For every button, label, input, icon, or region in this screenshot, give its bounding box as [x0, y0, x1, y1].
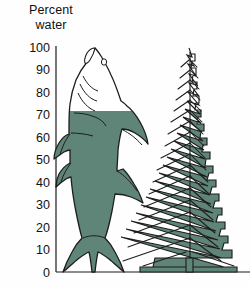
tree-empty-region [110, 40, 245, 112]
tree-trunk [186, 258, 193, 272]
fish-silhouette [50, 40, 160, 276]
percent-water-figure: Percent water 100 90 80 70 60 50 40 30 2… [0, 0, 250, 287]
fish-eye [101, 59, 106, 65]
fish-empty-region [50, 40, 160, 112]
conifer-tree-silhouette [110, 40, 245, 276]
plot-area [0, 0, 250, 287]
